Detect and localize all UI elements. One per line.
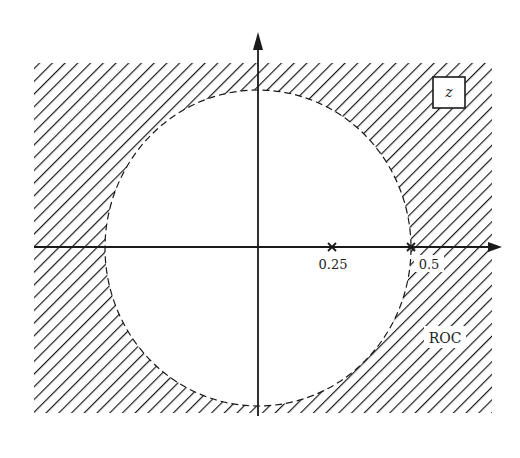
imaginary-axis-arrow-icon [253, 32, 263, 50]
roc-region [34, 63, 492, 413]
real-axis-arrow-icon [488, 242, 502, 252]
roc-label: ROC [429, 330, 462, 346]
z-plane-diagram: 0.25 0.5 z ROC [0, 0, 520, 458]
tick-label-0.25: 0.25 [319, 257, 348, 272]
plane-label: z [444, 84, 453, 100]
tick-label-0.5: 0.5 [419, 257, 440, 272]
